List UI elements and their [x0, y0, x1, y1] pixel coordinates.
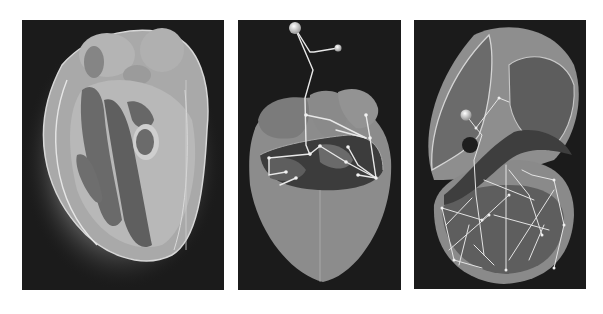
- cutaway-network-image: [414, 20, 586, 289]
- node-sphere: [461, 110, 472, 121]
- panel-cutaway-network: [414, 20, 586, 289]
- node-sphere: [335, 45, 342, 52]
- volume-rendering-image: [22, 20, 224, 290]
- root-node-sphere: [289, 22, 301, 34]
- skeleton-overlay-image: [238, 20, 401, 290]
- panel-skeleton-overlay: [238, 20, 401, 290]
- panel-volume-rendering: [22, 20, 224, 290]
